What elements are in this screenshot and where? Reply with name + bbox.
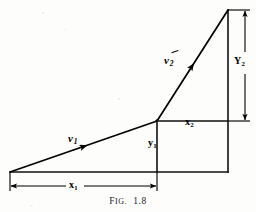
label-y1-subscript: 1 [153, 142, 156, 149]
label-y2-base: Y [234, 55, 241, 66]
label-x1-subscript: 1 [74, 184, 77, 191]
figure-caption: FIG. 1.8 [0, 196, 256, 206]
label-v1-base: v [68, 132, 73, 144]
label-y1: y1 [148, 138, 157, 150]
label-y2-subscript: 2 [242, 60, 245, 67]
label-v2-base: v [164, 54, 169, 66]
label-v2-subscript: 2 [170, 59, 174, 68]
label-y2: Y2 [234, 56, 245, 68]
label-v1: v1 [68, 133, 77, 146]
label-v2: v2 [164, 55, 173, 68]
label-x2-subscript: 2 [190, 121, 193, 128]
figure-container: v1 v2 x1 x2 y1 Y2 FIG. 1.8 [0, 0, 256, 212]
label-x1: x1 [69, 180, 78, 192]
label-v1-subscript: 1 [74, 137, 78, 146]
vector-v2-arrowhead [185, 66, 192, 77]
vector-diagram [0, 0, 256, 212]
caption-number: 1.8 [133, 196, 147, 206]
caption-prefix-rest: IG. [115, 197, 127, 206]
label-x2: x2 [185, 117, 194, 129]
vector-v1-arrowhead [72, 146, 84, 150]
